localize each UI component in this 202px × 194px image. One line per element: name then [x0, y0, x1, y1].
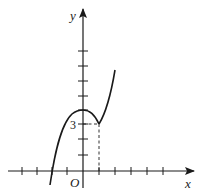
x-axis-label: x [184, 176, 191, 191]
y-axis-label: y [68, 8, 76, 23]
y-value-label-3: 3 [70, 118, 76, 132]
function-graph: y x O 3 [0, 0, 202, 194]
curve-right-branch [99, 70, 115, 124]
origin-label: O [70, 175, 80, 190]
dashed-guides [83, 124, 99, 171]
